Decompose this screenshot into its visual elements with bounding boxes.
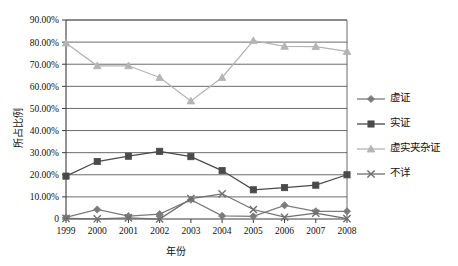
svg-text:20.00%: 20.00%: [30, 170, 59, 180]
series-2: [63, 148, 350, 193]
y-axis-title: 所占比例: [10, 98, 25, 158]
svg-text:0: 0: [54, 214, 59, 224]
series-4: [62, 190, 350, 222]
svg-text:2002: 2002: [150, 226, 169, 236]
svg-text:2008: 2008: [338, 226, 357, 236]
svg-text:2000: 2000: [88, 226, 107, 236]
svg-text:70.00%: 70.00%: [30, 60, 59, 70]
svg-text:40.00%: 40.00%: [30, 126, 59, 136]
x-axis-tick-labels: 1999200020012002200320042005200620072008: [57, 226, 357, 236]
diamond-marker-icon: [356, 92, 386, 106]
legend-item-3[interactable]: 虚实夹杂证: [356, 136, 458, 161]
y-axis-tick-labels: 010.00%20.00%30.00%40.00%50.00%60.00%70.…: [30, 15, 60, 224]
legend-item-2[interactable]: 实证: [356, 111, 458, 136]
plot-frame: [62, 20, 347, 223]
legend-item-4[interactable]: 不详: [356, 161, 458, 186]
x-marker-icon: [356, 167, 386, 181]
chart-container: 010.00%20.00%30.00%40.00%50.00%60.00%70.…: [0, 0, 458, 266]
svg-text:1999: 1999: [57, 226, 76, 236]
svg-text:2001: 2001: [119, 226, 138, 236]
legend-item-1[interactable]: 虚证: [356, 86, 458, 111]
svg-text:2006: 2006: [275, 226, 294, 236]
svg-text:50.00%: 50.00%: [30, 104, 59, 114]
legend-label: 实证: [390, 118, 410, 129]
svg-text:90.00%: 90.00%: [30, 15, 59, 25]
svg-text:60.00%: 60.00%: [30, 82, 59, 92]
legend-label: 虚实夹杂证: [390, 143, 440, 154]
series-3: [62, 37, 351, 104]
chart-legend: 虚证实证虚实夹杂证不详: [356, 86, 458, 186]
svg-text:2007: 2007: [306, 226, 325, 236]
svg-text:10.00%: 10.00%: [30, 192, 59, 202]
svg-text:2005: 2005: [244, 226, 263, 236]
legend-label: 虚证: [390, 93, 410, 104]
svg-text:80.00%: 80.00%: [30, 38, 59, 48]
svg-text:2003: 2003: [181, 226, 200, 236]
legend-label: 不详: [390, 168, 410, 179]
triangle-marker-icon: [356, 142, 386, 156]
svg-text:30.00%: 30.00%: [30, 148, 59, 158]
x-axis-title: 年份: [0, 243, 352, 258]
svg-text:2004: 2004: [213, 226, 232, 236]
square-marker-icon: [356, 117, 386, 131]
series-1: [62, 196, 350, 221]
